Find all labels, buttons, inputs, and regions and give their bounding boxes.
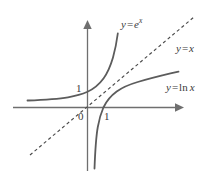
identity-label-equals: = bbox=[181, 42, 189, 54]
log-label-equals: = bbox=[171, 81, 179, 93]
y-axis bbox=[83, 20, 91, 171]
curve-label-logarithm: y=lnx bbox=[166, 82, 195, 93]
curve-label-identity: y=x bbox=[176, 43, 194, 54]
tick-label-y-one: 1 bbox=[76, 83, 82, 94]
x-axis-arrowhead bbox=[175, 103, 184, 111]
function-graph-figure: y=ex y=x y=lnx 1 0 1 bbox=[0, 0, 212, 182]
x-axis bbox=[13, 103, 184, 111]
log-label-function: ln bbox=[179, 81, 188, 93]
log-label-argument: x bbox=[188, 81, 195, 93]
curve-exponential bbox=[28, 34, 118, 101]
exp-label-exponent: x bbox=[139, 16, 142, 25]
curve-label-exponential: y=ex bbox=[121, 17, 142, 30]
tick-label-x-one: 1 bbox=[104, 111, 110, 122]
exp-label-equals: = bbox=[126, 18, 134, 30]
identity-label-rhs: x bbox=[189, 42, 194, 54]
y-axis-arrowhead bbox=[83, 20, 91, 29]
tick-label-origin: 0 bbox=[78, 111, 84, 122]
